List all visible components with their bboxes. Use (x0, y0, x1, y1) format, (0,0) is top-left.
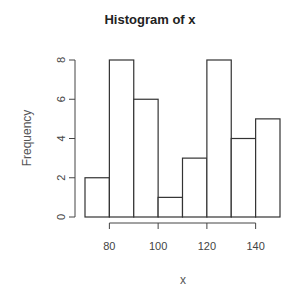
histogram-bar (231, 139, 255, 218)
histogram-bar (207, 60, 231, 217)
histogram-bar (109, 60, 133, 217)
x-tick-label: 100 (149, 240, 167, 252)
y-tick-label: 4 (55, 135, 67, 141)
x-tick-label: 120 (198, 240, 216, 252)
histogram-bar (134, 99, 158, 217)
y-tick-label: 8 (55, 57, 67, 63)
y-axis: 02468 (55, 57, 75, 220)
y-tick-label: 6 (55, 96, 67, 102)
chart-title: Histogram of x (104, 12, 196, 27)
x-axis-label: x (180, 273, 186, 287)
y-tick-label: 0 (55, 214, 67, 220)
histogram-bars (85, 60, 280, 217)
histogram-bar (85, 178, 109, 217)
x-axis: 80100120140 (103, 223, 265, 252)
histogram-bar (256, 119, 280, 217)
histogram-plot: Histogram of x 02468 80100120140 x Frequ… (0, 0, 300, 299)
histogram-bar (183, 158, 207, 217)
x-tick-label: 80 (103, 240, 115, 252)
y-axis-label: Frequency (20, 110, 34, 167)
y-tick-label: 2 (55, 175, 67, 181)
x-tick-label: 140 (246, 240, 264, 252)
histogram-bar (158, 197, 182, 217)
